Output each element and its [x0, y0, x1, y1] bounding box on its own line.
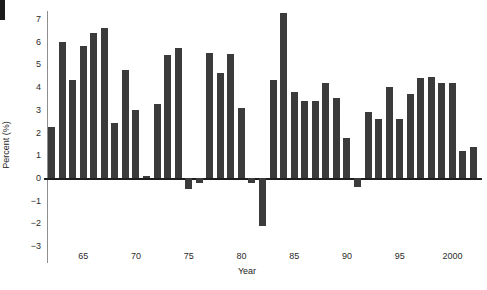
bar — [101, 28, 108, 178]
bar — [164, 55, 171, 178]
y-tick-label: 7 — [0, 14, 41, 23]
bar — [428, 77, 435, 178]
y-tick-label: 6 — [0, 37, 41, 46]
x-tick-label: 80 — [236, 251, 246, 261]
bar — [354, 178, 361, 187]
bar — [333, 98, 340, 178]
y-tick-label: 4 — [0, 83, 41, 92]
y-tick-label: 2 — [0, 128, 41, 137]
bar — [154, 104, 161, 178]
bar — [407, 94, 414, 178]
x-tick-label: 65 — [78, 251, 88, 261]
bar — [449, 83, 456, 178]
bar — [248, 178, 255, 183]
bar — [280, 13, 287, 178]
bar — [217, 73, 224, 178]
bar — [111, 123, 118, 178]
bar — [238, 108, 245, 178]
bar — [459, 151, 466, 178]
y-tick-label: 5 — [0, 60, 41, 69]
y-tick-label: 3 — [0, 105, 41, 114]
bar — [227, 54, 234, 178]
x-tick-label: 70 — [131, 251, 141, 261]
bar — [48, 127, 55, 178]
bar — [90, 33, 97, 178]
bar — [343, 138, 350, 178]
x-tick-label: 95 — [395, 251, 405, 261]
y-tick-label: 0 — [0, 174, 41, 183]
bar — [322, 83, 329, 178]
bar — [396, 119, 403, 178]
bar — [259, 178, 266, 226]
bar — [59, 42, 66, 178]
bar — [69, 80, 76, 178]
bar — [122, 70, 129, 178]
bar — [470, 147, 477, 178]
bar — [175, 48, 182, 178]
bar-chart: Percent (%) 876543210−1−2−3 657075808590… — [0, 0, 487, 290]
x-tick-label: 90 — [342, 251, 352, 261]
bar — [143, 176, 150, 178]
bar — [132, 110, 139, 178]
bar — [386, 87, 393, 178]
y-tick-label: −3 — [0, 242, 41, 251]
bar — [438, 83, 445, 178]
bar — [312, 101, 319, 178]
bar — [417, 78, 424, 178]
y-tick-label: 1 — [0, 151, 41, 160]
bar — [291, 92, 298, 178]
bar — [206, 53, 213, 178]
bar — [301, 101, 308, 178]
bar — [270, 80, 277, 178]
bar — [196, 178, 203, 183]
x-axis-title: Year — [238, 266, 256, 276]
bar — [185, 178, 192, 189]
bar — [80, 46, 87, 178]
bar — [365, 112, 372, 178]
bar — [375, 119, 382, 178]
y-tick-label: −1 — [0, 196, 41, 205]
x-tick-label: 2000 — [442, 251, 462, 261]
x-tick-label: 75 — [184, 251, 194, 261]
x-tick-label: 85 — [289, 251, 299, 261]
y-tick-label: 8 — [0, 0, 41, 1]
y-tick-label: −2 — [0, 219, 41, 228]
